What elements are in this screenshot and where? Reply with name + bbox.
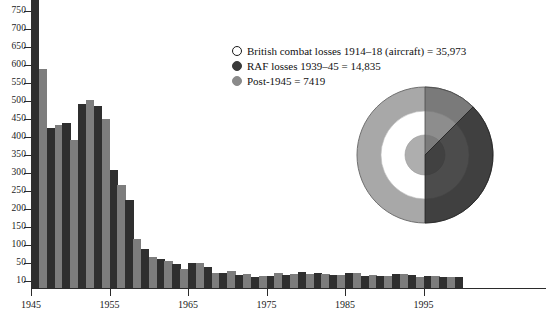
y-axis-tick-label: 650 [0,42,26,52]
y-axis-tick-mark [24,65,31,66]
y-axis-tick-mark [24,137,31,138]
y-axis-tick-mark [24,155,31,156]
y-axis-tick-mark [24,11,31,12]
x-axis-tick-label: 1975 [247,300,287,310]
y-axis-tick-label: 150 [0,222,26,232]
x-axis-tick-mark [267,289,268,296]
x-axis-tick-label: 1945 [11,300,51,310]
y-axis-tick-label: 10 [0,276,26,286]
proportional-circles-inset [356,86,494,224]
y-axis-tick-label: 400 [0,132,26,142]
y-axis-tick-mark [24,245,31,246]
y-axis-tick-label: 300 [0,168,26,178]
y-axis-tick-label: 500 [0,96,26,106]
chart-canvas: 7507006506005505004504003503002502001501… [0,0,549,327]
y-axis-tick-mark [24,263,31,264]
y-axis-tick-label: 50 [0,258,26,268]
legend: British combat losses 1914–18 (aircraft)… [232,44,532,89]
y-axis-tick-label: 200 [0,204,26,214]
x-axis-tick-mark [110,289,111,296]
y-axis-tick-label: 250 [0,186,26,196]
x-axis-tick-mark [31,289,32,296]
bar [455,277,463,288]
x-axis-tick-label: 1955 [90,300,130,310]
legend-label: Post-1945 = 7419 [247,75,325,87]
y-axis-tick-mark [24,83,31,84]
legend-item: RAF losses 1939–45 = 14,835 [232,59,532,73]
y-axis-tick-label: 100 [0,240,26,250]
x-axis-tick-label: 1985 [325,300,365,310]
y-axis-tick-label: 600 [0,60,26,70]
y-axis-tick-mark [24,227,31,228]
x-axis-line [31,288,546,289]
x-axis-tick-label: 1965 [168,300,208,310]
pie-svg [356,86,494,224]
legend-label: British combat losses 1914–18 (aircraft)… [247,45,466,57]
x-axis-tick-label: 1995 [404,300,444,310]
y-axis-tick-label: 750 [0,6,26,16]
y-axis-tick-mark [24,47,31,48]
legend-swatch-filled-circle [232,76,242,86]
y-axis-tick-mark [24,191,31,192]
x-axis-tick-mark [188,289,189,296]
legend-swatch-filled-circle [232,61,242,71]
x-axis-tick-mark [345,289,346,296]
y-axis-tick-mark [24,173,31,174]
y-axis-tick-label: 350 [0,150,26,160]
y-axis-tick-label: 550 [0,78,26,88]
y-axis-tick-mark [24,209,31,210]
x-axis-tick-mark [424,289,425,296]
y-axis-tick-mark [24,29,31,30]
y-axis-tick-mark [24,281,31,282]
y-axis-tick-label: 700 [0,24,26,34]
y-axis-tick-mark [24,119,31,120]
y-axis-tick-label: 450 [0,114,26,124]
legend-item: British combat losses 1914–18 (aircraft)… [232,44,532,58]
legend-swatch-open-circle [232,46,242,56]
legend-label: RAF losses 1939–45 = 14,835 [247,60,381,72]
y-axis-tick-mark [24,101,31,102]
